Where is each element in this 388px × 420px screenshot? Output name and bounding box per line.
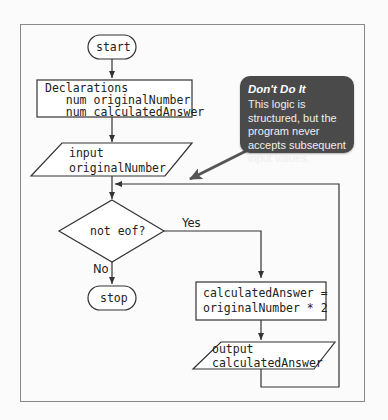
yes-label: Yes	[182, 216, 201, 230]
callout-arrow	[190, 150, 248, 179]
output-line-2: calculatedAnswer	[212, 356, 323, 370]
callout-body: This logic is structured, but the progra…	[248, 98, 346, 166]
start-label: start	[96, 40, 131, 54]
decision-label: not eof?	[90, 224, 145, 238]
declarations-line-3: num calculatedAnswer	[45, 105, 204, 119]
stop-label: stop	[100, 291, 128, 305]
input-line-1: input	[69, 146, 104, 160]
dont-do-it-callout: Don't Do It This logic is structured, bu…	[240, 76, 354, 153]
process-line-2: originalNumber * 2	[203, 301, 328, 315]
process-line-1: calculatedAnswer =	[203, 286, 328, 300]
callout-title: Don't Do It	[248, 82, 346, 97]
flowchart-figure: start Declarations num originalNumber nu…	[0, 0, 388, 420]
flowchart-lines	[0, 0, 388, 420]
no-label: No	[93, 262, 109, 276]
input-line-2: originalNumber	[69, 161, 166, 175]
output-line-1: output	[212, 342, 254, 356]
